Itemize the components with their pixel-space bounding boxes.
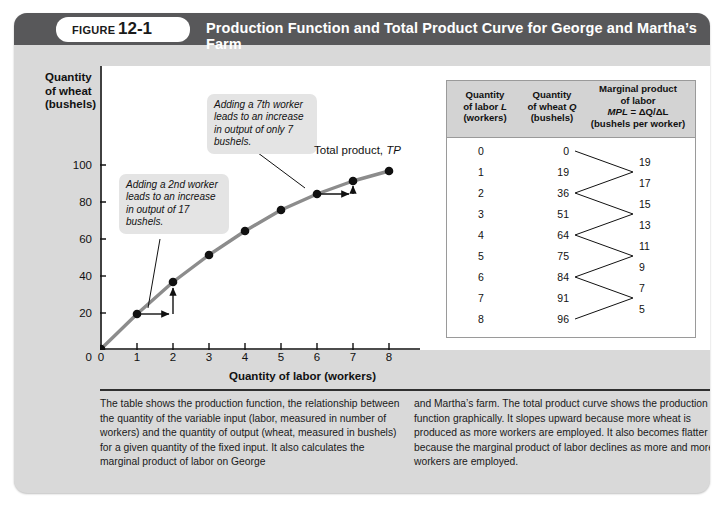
- y-tick-80: 80: [66, 196, 92, 208]
- y-tick-40: 40: [66, 270, 92, 282]
- y-tick-60: 60: [66, 233, 92, 245]
- figure-header-bar: FIGURE 12-1 Production Function and Tota…: [14, 13, 710, 45]
- callout-7th-worker: Adding a 7th worker leads to an increase…: [207, 94, 317, 154]
- caption-left-column: The table shows the production function,…: [100, 397, 400, 470]
- x-tick-1: 1: [130, 351, 144, 363]
- figure-badge-number: 12-1: [118, 19, 152, 39]
- figure-title: Production Function and Total Product Cu…: [206, 20, 710, 52]
- table-row: 2: [455, 187, 507, 199]
- table-header-labor: Quantity of labor L (workers): [453, 89, 517, 124]
- x-tick-5: 5: [274, 351, 288, 363]
- table-row: 5: [455, 250, 507, 262]
- table-cell-wheat: 19: [517, 166, 569, 178]
- curve-label-italic: TP: [386, 144, 401, 156]
- x-tick-0: 0: [94, 351, 108, 363]
- table-cell-wheat: 51: [517, 208, 569, 220]
- table-cell-mpl: 17: [639, 177, 673, 189]
- x-tick-6: 6: [310, 351, 324, 363]
- figure-card: FIGURE 12-1 Production Function and Tota…: [14, 13, 710, 493]
- table-cell-wheat: 0: [517, 145, 569, 157]
- table-header-wheat: Quantity of wheat Q (bushels): [519, 89, 585, 124]
- table-row: 8: [455, 313, 507, 325]
- y-tick-0: 0: [66, 351, 92, 363]
- total-product-curve-label: Total product, TP: [314, 144, 401, 156]
- table-row: 1: [455, 166, 507, 178]
- table-cell-wheat: 64: [517, 229, 569, 241]
- table-cell-mpl: 9: [639, 261, 673, 273]
- table-cell-mpl: 11: [639, 240, 673, 252]
- callout-2nd-worker: Adding a 2nd worker leads to an increase…: [119, 174, 229, 234]
- production-function-table: Quantity of labor L (workers) Quantity o…: [446, 80, 696, 338]
- table-row: 4: [455, 229, 507, 241]
- table-cell-mpl: 15: [639, 198, 673, 210]
- figure-number-badge: FIGURE 12-1: [56, 17, 190, 42]
- table-cell-wheat: 91: [517, 292, 569, 304]
- y-tick-20: 20: [66, 307, 92, 319]
- table-cell-wheat: 36: [517, 187, 569, 199]
- x-tick-4: 4: [238, 351, 252, 363]
- y-axis-label: Quantityof wheat(bushels): [45, 71, 107, 112]
- table-cell-wheat: 84: [517, 271, 569, 283]
- table-row: 6: [455, 271, 507, 283]
- table-header-mpl: Marginal product of labor MPL = ΔQ/ΔL (b…: [585, 83, 691, 129]
- curve-label-text: Total product,: [314, 144, 386, 156]
- y-tick-100: 100: [66, 159, 92, 171]
- table-cell-wheat: 75: [517, 250, 569, 262]
- x-tick-2: 2: [166, 351, 180, 363]
- table-row: 0: [455, 145, 507, 157]
- table-row: 7: [455, 292, 507, 304]
- caption-right-column: and Martha’s farm. The total product cur…: [414, 397, 710, 470]
- x-tick-7: 7: [346, 351, 360, 363]
- table-cell-mpl: 5: [639, 303, 673, 315]
- table-row: 3: [455, 208, 507, 220]
- table-cell-mpl: 19: [639, 156, 673, 168]
- chart-panel: Adding a 2nd worker leads to an increase…: [100, 66, 710, 350]
- figure-badge-word: FIGURE: [72, 24, 115, 36]
- x-tick-3: 3: [202, 351, 216, 363]
- table-cell-wheat: 96: [517, 313, 569, 325]
- table-cell-mpl: 7: [639, 282, 673, 294]
- x-tick-8: 8: [382, 351, 396, 363]
- caption-divider: [100, 389, 710, 391]
- x-axis-label: Quantity of labor (workers): [229, 370, 376, 382]
- table-cell-mpl: 13: [639, 219, 673, 231]
